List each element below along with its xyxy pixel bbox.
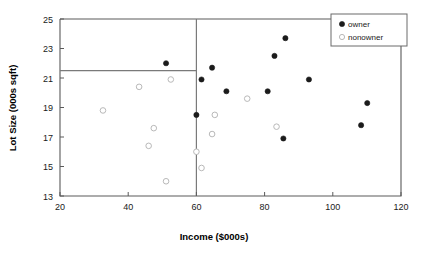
data-point-owner [199, 77, 204, 82]
x-tick-label: 100 [325, 202, 340, 212]
data-point-owner [272, 53, 277, 58]
data-point-nonowner [100, 108, 106, 114]
y-tick-label: 17 [43, 133, 53, 143]
x-tick-label: 20 [55, 202, 65, 212]
data-point-nonowner [199, 165, 205, 171]
x-axis-title: Income ($000s) [180, 231, 249, 242]
legend-marker-owner [339, 21, 344, 26]
data-point-nonowner [194, 149, 200, 155]
data-point-nonowner [212, 112, 218, 118]
legend-marker-nonowner [339, 34, 344, 39]
legend-label-owner: owner [348, 20, 370, 29]
data-point-owner [224, 89, 229, 94]
y-tick-label: 13 [43, 192, 53, 202]
data-point-owner [265, 89, 270, 94]
data-point-owner [359, 123, 364, 128]
y-tick-label: 15 [43, 162, 53, 172]
data-point-nonowner [244, 96, 250, 102]
y-tick-label: 23 [43, 44, 53, 54]
y-tick-label: 21 [43, 74, 53, 84]
data-point-owner [306, 77, 311, 82]
data-point-owner [365, 100, 370, 105]
data-point-nonowner [168, 77, 174, 83]
scatter-chart: 20406080100120 13151719212325 ownernonow… [0, 0, 428, 254]
x-tick-label: 40 [123, 202, 133, 212]
legend-label-nonowner: nonowner [348, 33, 383, 42]
data-point-owner [283, 36, 288, 41]
data-point-owner [194, 112, 199, 117]
y-tick-label: 19 [43, 103, 53, 113]
data-point-nonowner [151, 125, 157, 131]
data-point-nonowner [163, 178, 169, 184]
chart-canvas: 20406080100120 13151719212325 ownernonow… [0, 0, 428, 254]
x-tick-label: 80 [260, 202, 270, 212]
data-point-nonowner [146, 143, 152, 149]
data-point-owner [163, 61, 168, 66]
y-tick-label: 25 [43, 15, 53, 25]
data-point-nonowner [136, 84, 142, 90]
data-point-owner [281, 136, 286, 141]
x-tick-label: 60 [191, 202, 201, 212]
data-point-owner [209, 65, 214, 70]
data-point-nonowner [274, 124, 280, 130]
y-axis-title: Lot Size (000s sqft) [7, 65, 18, 152]
x-tick-label: 120 [393, 202, 408, 212]
data-point-nonowner [209, 131, 215, 137]
chart-legend: ownernonowner [331, 14, 407, 46]
